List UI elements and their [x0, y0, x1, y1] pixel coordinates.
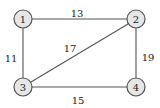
edge-weight-3-2: 17	[64, 43, 77, 54]
node-label: 1	[20, 14, 26, 25]
edge-weight-1-3: 11	[5, 53, 18, 64]
node-2: 2	[127, 10, 145, 28]
weighted-graph-diagram: 13 11 17 19 15 1 2 3 4	[0, 0, 160, 108]
edge-weight-2-4: 19	[142, 52, 155, 63]
node-label: 2	[133, 14, 139, 25]
node-label: 3	[20, 82, 26, 93]
edges	[23, 19, 136, 87]
node-3: 3	[14, 78, 32, 96]
edge-weight-3-4: 15	[72, 95, 85, 106]
node-1: 1	[14, 10, 32, 28]
edge-weight-1-2: 13	[71, 8, 84, 19]
node-4: 4	[127, 78, 145, 96]
node-label: 4	[133, 82, 139, 93]
edge-3-2	[31, 24, 128, 82]
